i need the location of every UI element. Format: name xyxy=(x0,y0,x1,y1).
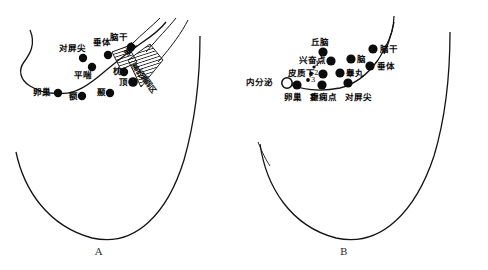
label-e-a: 额 xyxy=(69,92,78,101)
label-dianxiandian: 癫痫点 xyxy=(310,93,336,102)
point-nie xyxy=(106,89,114,97)
helix-outline xyxy=(16,36,200,240)
label-duipingjian-b: 对屏尖 xyxy=(345,93,371,102)
panel-b: 脑干 丘脑 垂体 脑 兴奋点 睾丸 皮质下 内分泌 卵巢 癫痫点 对屏尖 1 2… xyxy=(244,0,488,270)
label-naogan-a: 脑干 xyxy=(110,33,128,42)
label-chuiti-a: 垂体 xyxy=(93,38,111,47)
label-luanchao-a: 卵巢 xyxy=(33,88,51,97)
label-chuiti-b: 垂体 xyxy=(377,62,395,71)
point-nao xyxy=(346,54,355,63)
point-chuiti xyxy=(104,51,112,59)
panel-b-drawing xyxy=(244,0,488,270)
point-pizhixia-3 xyxy=(306,78,310,82)
label-pingchuan-a: 平喘 xyxy=(74,71,92,80)
point-dianxiandian xyxy=(317,80,326,89)
antihelix-outline xyxy=(21,30,58,93)
label-duipingjian-a: 对屏尖 xyxy=(59,44,85,53)
ear-acupoint-figure: 脑干 垂体 对屏尖 平喘 枕 顶 颞 额 卵巢 脑区 神经衰弱区 A xyxy=(0,0,488,270)
panel-a: 脑干 垂体 对屏尖 平喘 枕 顶 颞 额 卵巢 脑区 神经衰弱区 A xyxy=(0,0,244,270)
label-zhen-a: 枕 xyxy=(113,67,122,76)
label-pizhixia-3: 3 xyxy=(311,76,315,85)
point-naogan-b xyxy=(368,44,377,53)
helix-outline-b xyxy=(260,32,450,240)
label-qiunao: 丘脑 xyxy=(311,38,329,47)
point-luanchao-b xyxy=(292,80,301,89)
point-duipingjian xyxy=(79,54,87,62)
label-neifenmi: 内分泌 xyxy=(246,78,272,87)
point-duipingjian-b xyxy=(343,78,352,87)
label-gaowan: 睾丸 xyxy=(346,69,364,78)
point-ding xyxy=(128,77,138,87)
panel-b-caption: B xyxy=(340,246,347,257)
label-naogan-b: 脑干 xyxy=(380,45,398,54)
point-gaowan xyxy=(335,68,344,77)
point-luanchao xyxy=(54,89,62,97)
panel-a-caption: A xyxy=(95,246,102,257)
point-chuiti-b xyxy=(365,61,374,70)
label-nie-a: 颞 xyxy=(97,88,106,97)
label-ding-a: 顶 xyxy=(119,78,128,87)
label-luanchao-b: 卵巢 xyxy=(284,93,302,102)
label-pizhixia-1: 1 xyxy=(315,60,319,69)
point-e xyxy=(78,92,86,100)
label-nao: 脑 xyxy=(357,55,366,64)
point-xingfendian xyxy=(326,56,335,65)
point-pizhixia xyxy=(318,69,327,78)
point-neifenmi xyxy=(282,78,292,88)
label-xingfendian: 兴奋点 xyxy=(299,56,325,65)
